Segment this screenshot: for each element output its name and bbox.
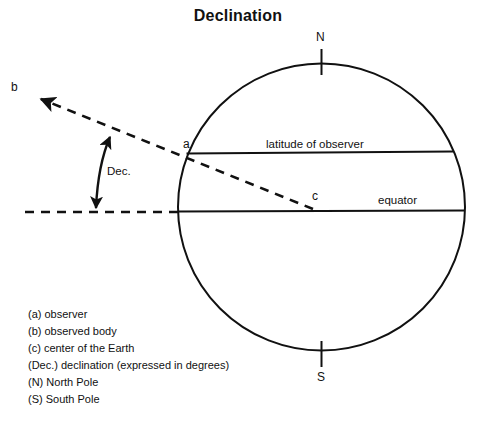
earth-center-point-label: c — [312, 190, 318, 202]
south-pole-label: S — [317, 371, 325, 383]
legend-item: (N) North Pole — [28, 377, 98, 388]
line-of-sight-dashed-line — [41, 99, 313, 209]
equator-label: equator — [378, 195, 417, 207]
legend-item: (S) South Pole — [28, 394, 100, 405]
legend-item: (Dec.) declination (expressed in degrees… — [28, 360, 229, 371]
legend-item: (b) observed body — [28, 326, 117, 337]
observer-point-label: a — [183, 138, 190, 150]
equator-line — [178, 211, 465, 212]
declination-angle-label: Dec. — [107, 166, 131, 178]
page-title: Declination — [168, 8, 308, 24]
legend-item: (c) center of the Earth — [28, 343, 134, 354]
north-pole-label: N — [316, 31, 325, 43]
observed-body-point-label: b — [11, 81, 18, 93]
earth-circle — [178, 64, 465, 351]
legend-item: (a) observer — [28, 309, 87, 320]
latitude-of-observer-line — [187, 152, 454, 154]
latitude-of-observer-label: latitude of observer — [266, 139, 364, 151]
declination-diagram-page: Declination N S a b c latitude of observ… — [0, 0, 479, 424]
